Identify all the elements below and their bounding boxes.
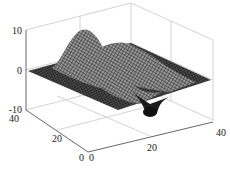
y-tick-20: 20: [52, 133, 62, 144]
z-axis-ticks: 10 0 -10: [9, 25, 22, 115]
y-tick-0: 0: [79, 152, 84, 163]
x-tick-40: 40: [216, 127, 226, 138]
x-tick-0: 0: [89, 152, 94, 163]
y-axis-ticks: 40 20 0: [9, 113, 84, 163]
y-tick-40: 40: [9, 113, 19, 124]
x-axis-ticks: 0 20 40: [89, 127, 226, 163]
surface-plot: 10 0 -10 40 20 0 0 20 40: [0, 0, 230, 172]
z-tick-0: 0: [17, 65, 22, 76]
x-tick-20: 20: [147, 142, 157, 153]
surface-mesh: [28, 29, 211, 117]
z-tick-10: 10: [12, 25, 22, 36]
